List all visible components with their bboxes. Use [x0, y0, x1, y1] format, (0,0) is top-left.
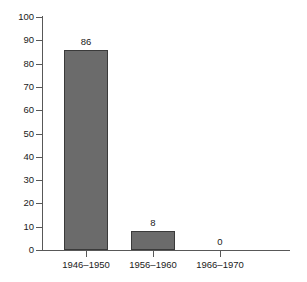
y-axis-tick — [36, 87, 42, 88]
bar-chart: 0102030405060708090100 1946–19501956–196… — [0, 0, 307, 282]
y-axis-tick — [36, 134, 42, 135]
x-axis-tick-label: 1946–1950 — [62, 260, 110, 270]
y-axis-tick — [36, 17, 42, 18]
y-axis-tick-label: 30 — [4, 175, 34, 185]
x-axis-tick — [153, 251, 154, 257]
bar-value-label: 86 — [81, 37, 92, 47]
y-axis-tick-label: 100 — [4, 12, 34, 22]
x-axis-tick-label: 1966–1970 — [196, 260, 244, 270]
y-axis-tick-label: 0 — [4, 245, 34, 255]
bar — [64, 50, 108, 250]
y-axis-tick — [36, 157, 42, 158]
y-axis-tick-label: 80 — [4, 59, 34, 69]
y-axis-tick — [36, 110, 42, 111]
y-axis-tick-label: 40 — [4, 152, 34, 162]
bar — [131, 231, 175, 250]
y-axis-tick — [36, 203, 42, 204]
y-axis-tick — [36, 180, 42, 181]
y-axis-tick-label: 70 — [4, 82, 34, 92]
x-axis-line — [42, 250, 290, 251]
x-axis-tick-label: 1956–1960 — [129, 260, 177, 270]
y-axis-tick — [36, 227, 42, 228]
y-axis-tick-label: 60 — [4, 105, 34, 115]
y-axis-tick-label: 50 — [4, 129, 34, 139]
y-axis-tick — [36, 64, 42, 65]
x-axis-tick — [220, 251, 221, 257]
x-axis-tick — [86, 251, 87, 257]
y-axis-tick — [36, 250, 42, 251]
y-axis-tick — [36, 40, 42, 41]
y-axis-tick-label: 20 — [4, 198, 34, 208]
y-axis-tick-label: 10 — [4, 222, 34, 232]
bar-value-label: 0 — [217, 237, 222, 247]
y-axis-tick-label: 90 — [4, 35, 34, 45]
y-axis-line — [42, 16, 43, 251]
bar-value-label: 8 — [150, 218, 155, 228]
